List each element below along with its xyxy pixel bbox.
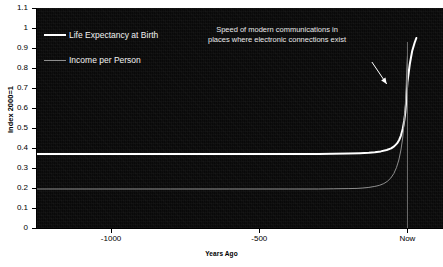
y-tick-mark [32,108,36,109]
x-tick-mark [259,229,260,233]
legend-item-income-per-person: Income per Person [44,55,141,65]
y-tick-mark [32,8,36,9]
y-tick-label: 0.2 [0,184,28,192]
legend-swatch-income-per-person [44,60,66,61]
y-tick-mark [32,148,36,149]
y-tick-label: 0.3 [0,164,28,172]
y-tick-mark [32,228,36,229]
annotation-text: Speed of modern communications in places… [182,25,372,45]
y-tick-label: 1 [0,24,28,32]
y-axis-title: Index 2000=1 [6,70,15,150]
legend: Life Expectancy at Birth Income per Pers… [44,24,194,76]
legend-label-income-per-person: Income per Person [69,55,141,65]
legend-item-life-expectancy: Life Expectancy at Birth [44,30,158,40]
y-tick-label: 1.1 [0,4,28,12]
legend-label-life-expectancy: Life Expectancy at Birth [69,30,158,40]
x-axis-title: Years Ago [0,250,443,257]
y-tick-label: 0.9 [0,44,28,52]
y-tick-mark [32,68,36,69]
annotation-line-2: places where electronic connections exis… [182,35,372,45]
y-tick-label: 0 [0,224,28,232]
x-tick-label: -1000 [81,234,141,243]
y-tick-mark [32,28,36,29]
y-tick-mark [32,208,36,209]
x-tick-mark [111,229,112,233]
annotation-line-1: Speed of modern communications in [182,25,372,35]
arrow-head [381,78,387,84]
y-tick-mark [32,128,36,129]
x-tick-label: Now [377,234,437,243]
y-tick-mark [32,168,36,169]
x-tick-mark [407,229,408,233]
legend-swatch-life-expectancy [44,34,66,36]
x-axis-line [36,228,443,229]
y-axis-line [36,8,37,229]
chart-figure: Life Expectancy at Birth Income per Pers… [0,0,443,267]
x-tick-label: -500 [229,234,289,243]
y-tick-label: 0.1 [0,204,28,212]
y-tick-mark [32,188,36,189]
plot-area: Life Expectancy at Birth Income per Pers… [37,8,443,228]
annotation-arrow-group [372,62,387,84]
y-tick-mark [32,48,36,49]
y-tick-mark [32,88,36,89]
